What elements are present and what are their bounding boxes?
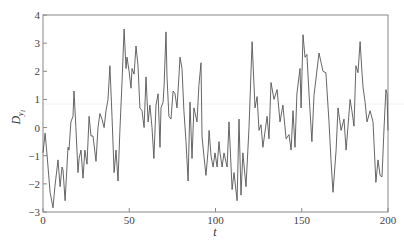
y-tick-label: 2 (35, 65, 41, 77)
plot-frame (43, 15, 388, 212)
x-tick-label: 0 (40, 214, 46, 226)
y-axis-label-subsubscript: 1 (20, 109, 26, 112)
series-line-dy1 (43, 29, 388, 208)
y-tick-label: −2 (28, 178, 40, 190)
y-tick-label: 3 (35, 37, 41, 49)
y-axis: −3−2−101234 (28, 9, 47, 218)
y-tick-label: −1 (28, 150, 40, 162)
x-tick-label: 200 (380, 214, 397, 226)
x-axis-label: t (213, 225, 217, 239)
y-tick-label: 0 (35, 122, 41, 134)
y-axis-label: Dy1 (9, 109, 26, 125)
line-chart: −3−2−101234 050100150200 t Dy1 (0, 0, 404, 244)
x-tick-label: 150 (294, 214, 311, 226)
x-tick-label: 50 (124, 214, 136, 226)
y-tick-label: −3 (28, 206, 40, 218)
svg-text:Dy1: Dy1 (9, 109, 26, 125)
y-axis-label-main: D (9, 116, 23, 126)
y-tick-label: 1 (35, 93, 41, 105)
y-tick-label: 4 (35, 9, 41, 21)
x-axis: 050100150200 (40, 208, 397, 226)
